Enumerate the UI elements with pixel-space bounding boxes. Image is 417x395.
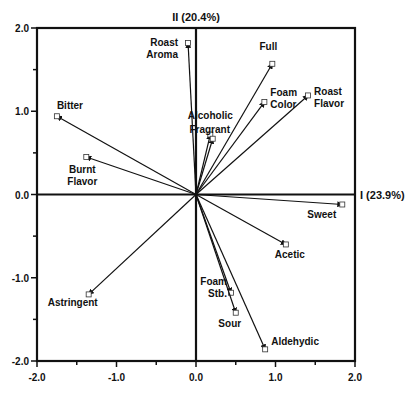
label-burnt-flavor: BurntFlavor: [67, 164, 97, 187]
label-foam-color: FoamColor: [270, 87, 297, 110]
label-astringent: Astringent: [48, 297, 99, 308]
point-marker-bitter: [54, 114, 59, 119]
vector-astringent: [89, 195, 196, 295]
label-sweet: Sweet: [307, 209, 337, 220]
biplot-svg: -2.0-1.00.01.02.02.01.00.0-1.0-2.0 Roast…: [0, 0, 417, 395]
y-axis-title: II (20.4%): [172, 11, 220, 23]
y-tick-label: 2.0: [15, 23, 29, 34]
point-marker-roast-aroma: [186, 40, 191, 45]
label-foam-stb: FoamStb.: [200, 276, 227, 299]
point-marker-fragrant: [210, 136, 215, 141]
point-marker-acetic: [283, 242, 288, 247]
vector-acetic: [196, 195, 286, 245]
label-fragrant: Fragrant: [189, 124, 230, 135]
x-axis-title: I (23.9%): [360, 189, 405, 201]
x-tick-label: 1.0: [269, 372, 283, 383]
x-tick-label: 0.0: [189, 372, 203, 383]
x-tick-label: -2.0: [28, 372, 46, 383]
label-sour: Sour: [218, 318, 241, 329]
label-full: Full: [259, 41, 277, 52]
x-tick-label: 2.0: [348, 372, 362, 383]
vector-burnt-flavor: [86, 157, 196, 194]
point-marker-burnt-flavor: [84, 155, 89, 160]
label-alcoholic: Alcoholic: [188, 110, 233, 121]
point-marker-sweet: [340, 202, 345, 207]
point-marker-full: [270, 61, 275, 66]
pca-biplot-chart: -2.0-1.00.01.02.02.01.00.0-1.0-2.0 Roast…: [0, 0, 417, 395]
point-marker-roast-flavor: [306, 93, 311, 98]
label-roast-flavor: RoastFlavor: [314, 86, 344, 109]
y-tick-label: -1.0: [12, 273, 30, 284]
vector-sweet: [196, 195, 342, 205]
x-tick-label: -1.0: [108, 372, 126, 383]
y-tick-label: 0.0: [15, 190, 29, 201]
point-marker-astringent: [86, 292, 91, 297]
label-acetic: Acetic: [275, 249, 305, 260]
label-bitter: Bitter: [57, 100, 83, 111]
y-tick-label: 1.0: [15, 106, 29, 117]
vector-fragrant: [196, 139, 213, 195]
label-aldehydic: Aldehydic: [271, 336, 319, 347]
point-marker-aldehydic: [263, 347, 268, 352]
y-tick-label: -2.0: [12, 356, 30, 367]
label-roast-aroma: RoastAroma: [146, 37, 178, 60]
point-marker-sour: [233, 310, 238, 315]
point-marker-foam-color: [262, 100, 267, 105]
loading-vectors: [54, 40, 344, 351]
